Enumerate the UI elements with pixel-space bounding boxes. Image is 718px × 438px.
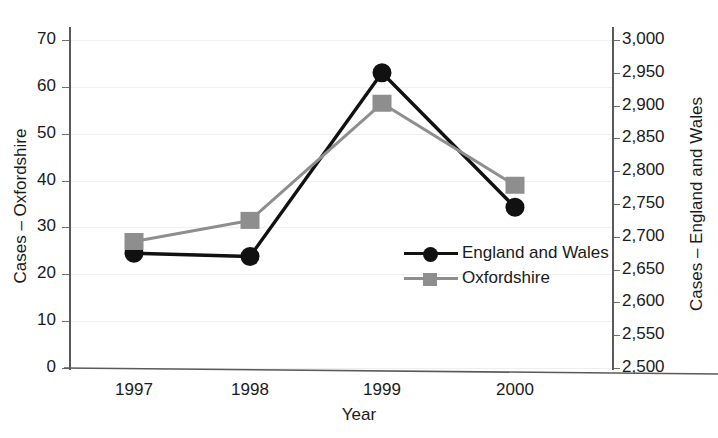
data-point-marker	[241, 247, 260, 266]
x-axis-title: Year	[0, 405, 718, 425]
legend-item-england-and-wales[interactable]: England and Wales	[404, 240, 609, 265]
data-point-marker	[506, 177, 525, 194]
series-line-oxfordshire	[134, 103, 515, 241]
data-point-marker	[373, 95, 392, 112]
data-point-marker	[125, 233, 144, 250]
x-axis-line	[64, 368, 718, 374]
left-axis-title: Cases – Oxfordshire	[11, 101, 31, 311]
data-point-marker	[373, 63, 392, 82]
series-line-england-and-wales	[134, 73, 515, 257]
legend-key-circle-icon	[404, 243, 458, 263]
legend-item-oxfordshire[interactable]: Oxfordshire	[404, 265, 609, 290]
chart-container: 010203040506070 2,5002,5502,6002,6502,70…	[0, 0, 718, 438]
chart-legend: England and Wales Oxfordshire	[404, 240, 609, 290]
data-point-marker	[506, 198, 525, 217]
legend-label: England and Wales	[462, 243, 609, 263]
data-point-marker	[241, 212, 260, 229]
right-axis-title: Cases – England and Wales	[687, 101, 707, 311]
plot-area	[0, 0, 718, 438]
legend-label: Oxfordshire	[462, 268, 550, 288]
legend-key-square-icon	[404, 268, 458, 288]
